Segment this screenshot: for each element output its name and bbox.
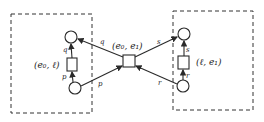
left-arc-bottom-to-transition (72, 72, 73, 82)
right-transition-label: (ℓ, e₁) (196, 57, 222, 67)
arc-label: p (98, 80, 103, 88)
right-transition (178, 56, 189, 69)
arc-right-bottom-to-center (136, 66, 177, 84)
arc-label: p (62, 73, 67, 81)
left-transition-label: (e₀, ℓ) (34, 60, 60, 70)
arc-label: q (100, 38, 105, 46)
center-transition (123, 55, 135, 67)
arc-label: q (63, 46, 68, 54)
left-arc-transition-to-top (71, 44, 72, 58)
center-transition-label: (e₀, e₁) (112, 41, 143, 51)
right-top-place (178, 28, 190, 40)
left-transition (67, 58, 77, 71)
left-top-place (65, 31, 77, 43)
arc-label: r (186, 72, 190, 80)
arc-label: s (157, 38, 161, 46)
arc-label: s (186, 46, 190, 54)
right-bottom-place (177, 80, 189, 92)
left-bottom-place (69, 82, 81, 94)
arc-label: r (158, 79, 162, 87)
petri-net-diagram: (e₀, ℓ) (ℓ, e₁) (e₀, e₁) q p q p s r s r (0, 0, 264, 122)
